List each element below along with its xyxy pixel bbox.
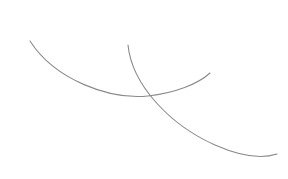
drawing-canvas — [0, 0, 288, 179]
arc-1-curve — [30, 41, 210, 97]
curves-svg — [0, 0, 288, 179]
arc-2-curve — [128, 45, 277, 156]
